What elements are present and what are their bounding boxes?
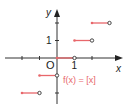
floor-function-chart: y x O 1 1 f(x) = [x] xyxy=(0,0,129,111)
y-axis-label: y xyxy=(45,7,52,18)
y-axis-arrow-icon xyxy=(54,9,60,17)
origin-label: O xyxy=(46,59,55,71)
y-tick-label-1: 1 xyxy=(46,35,52,46)
function-label: f(x) = [x] xyxy=(63,75,96,85)
x-axis-label: x xyxy=(115,63,122,74)
x-axis-arrow-icon xyxy=(115,55,123,61)
x-tick-label-1: 1 xyxy=(72,60,78,71)
